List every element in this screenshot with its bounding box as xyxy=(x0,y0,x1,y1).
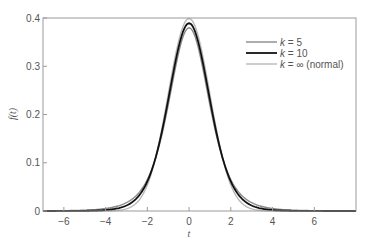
legend: k = 5k = 10k = ∞ (normal) xyxy=(246,37,344,70)
plot-area xyxy=(43,19,356,211)
y-tick-label: 0.2 xyxy=(26,109,40,120)
legend-label: k = 5 xyxy=(280,37,302,48)
x-tick-label: 0 xyxy=(186,216,192,227)
y-tick-label: 0.1 xyxy=(26,157,40,168)
legend-label: k = 10 xyxy=(280,48,308,59)
y-tick-label: 0.4 xyxy=(26,13,40,24)
axes: −6−4−2024600.10.20.30.4 xyxy=(26,13,356,228)
x-tick-label: 2 xyxy=(228,216,234,227)
x-tick-label: −6 xyxy=(58,216,70,227)
x-tick-label: −2 xyxy=(142,216,154,227)
x-tick-label: 6 xyxy=(311,216,317,227)
series-line-0 xyxy=(43,28,356,211)
y-axis-label: f(t) xyxy=(7,107,19,120)
y-tick-label: 0.3 xyxy=(26,61,40,72)
legend-label: k = ∞ (normal) xyxy=(280,59,344,70)
t-distribution-chart: −6−4−2024600.10.20.30.4 k = 5k = 10k = ∞… xyxy=(0,0,373,247)
x-tick-label: 4 xyxy=(270,216,276,227)
y-tick-label: 0 xyxy=(34,206,40,217)
x-axis-label: t xyxy=(188,228,191,239)
x-tick-label: −4 xyxy=(100,216,112,227)
